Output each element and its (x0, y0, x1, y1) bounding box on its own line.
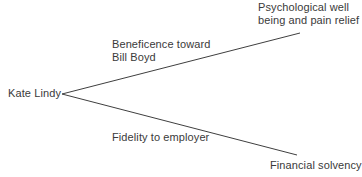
branch-label-upper: Beneficence toward Bill Boyd (112, 38, 210, 64)
source-node-label: Kate Lindy (8, 87, 61, 100)
outcome-label-upper: Psychological well being and pain relief (258, 1, 359, 27)
branch-label-lower: Fidelity to employer (112, 131, 209, 144)
outcome-label-lower: Financial solvency (270, 159, 362, 172)
branch-line-lower (62, 94, 297, 155)
diagram-canvas: Kate Lindy Beneficence toward Bill Boyd … (0, 0, 362, 177)
